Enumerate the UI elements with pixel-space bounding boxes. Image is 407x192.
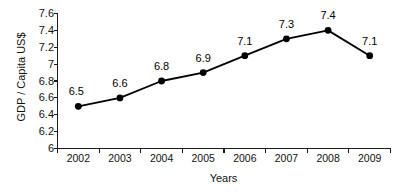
data-point-label: 6.9 — [196, 53, 211, 64]
y-axis-tick-label: 6.8 — [28, 76, 54, 87]
x-axis-tick-label: 2007 — [266, 152, 308, 164]
data-point-marker — [75, 103, 82, 110]
data-point-marker — [366, 52, 373, 59]
y-axis-tick-label-text: 6.6 — [28, 92, 54, 103]
y-axis-tick-label-text: 6 — [28, 143, 54, 154]
x-axis-tick-label: 2005 — [182, 152, 224, 164]
y-axis-tick-label-text: 6.2 — [28, 126, 54, 137]
y-axis-tick-label: 7.6 — [28, 8, 54, 19]
x-axis-tick-label: 2004 — [141, 152, 183, 164]
x-axis-tick-label: 2008 — [307, 152, 349, 164]
data-point-label: 6.5 — [69, 86, 84, 97]
data-point-label: 6.8 — [154, 61, 169, 72]
y-axis-tick-label: 6.4 — [28, 109, 54, 120]
data-point-marker — [158, 78, 165, 85]
x-axis-tick-label: 2006 — [224, 152, 266, 164]
y-axis-tick-label: 7.4 — [28, 25, 54, 36]
y-axis-tick-label: 6.2 — [28, 126, 54, 137]
y-axis-tick-label: 7 — [28, 59, 54, 70]
y-axis-tick-label-text: 7.4 — [28, 25, 54, 36]
y-axis-tick-label-text: 6.8 — [28, 76, 54, 87]
series-line — [78, 30, 369, 106]
x-axis-title: Years — [57, 172, 390, 184]
data-point-marker — [325, 27, 332, 34]
y-axis-tick-label: 6 — [28, 143, 54, 154]
x-axis-tick-label: 2003 — [99, 152, 141, 164]
y-axis-tick-label-text: 7 — [28, 59, 54, 70]
data-point-marker — [283, 35, 290, 42]
y-axis-tick-label-text: 7.6 — [28, 8, 54, 19]
data-point-label: 7.1 — [362, 36, 377, 47]
data-point-label: 7.4 — [320, 10, 335, 21]
data-point-marker — [200, 69, 207, 76]
y-axis-tick-label-text: 7.2 — [28, 42, 54, 53]
y-axis-tick-label: 7.2 — [28, 42, 54, 53]
data-point-marker — [241, 52, 248, 59]
y-axis-tick-label: 6.6 — [28, 92, 54, 103]
data-series — [75, 27, 373, 110]
x-axis-tick-label: 2009 — [349, 152, 391, 164]
data-point-label: 6.6 — [112, 78, 127, 89]
data-point-label: 7.3 — [279, 19, 294, 30]
y-axis-tick-label-text: 6.4 — [28, 109, 54, 120]
data-point-label: 7.1 — [237, 36, 252, 47]
x-axis-tick-label: 2002 — [58, 152, 100, 164]
gdp-per-capita-line-chart: GDP / Capita US$ 66.26.46.66.877.27.47.6… — [0, 0, 407, 192]
axes — [54, 14, 391, 153]
data-point-marker — [117, 94, 124, 101]
